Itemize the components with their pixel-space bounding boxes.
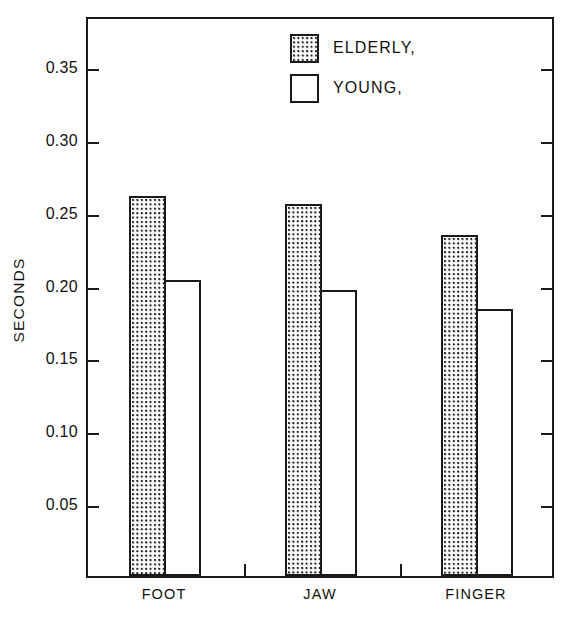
legend-label-young: YOUNG, (333, 79, 403, 97)
bar-foot-elderly (129, 196, 166, 576)
y-axis-tick-mark-right (541, 142, 552, 144)
y-axis-tick-mark (88, 215, 99, 217)
y-axis-tick-label: 0.30 (16, 132, 78, 150)
bar-chart-figure: SECONDS 0.050.100.150.200.250.300.35 FOO… (0, 0, 578, 622)
y-axis-tick-mark (88, 142, 99, 144)
y-axis-tick-labels: 0.050.100.150.200.250.300.35 (12, 0, 78, 622)
open-square-swatch (290, 74, 319, 103)
y-axis-tick-mark (88, 506, 99, 508)
y-axis-tick-mark-right (541, 69, 552, 71)
dotted-square-swatch (290, 34, 319, 63)
y-axis-tick-label: 0.15 (16, 350, 78, 368)
y-axis-tick-mark (88, 360, 99, 362)
y-axis-tick-mark (88, 433, 99, 435)
bar-jaw-young (320, 290, 357, 576)
legend-entry-elderly: ELDERLY, (290, 28, 520, 68)
y-axis-tick-mark-right (541, 215, 552, 217)
y-axis-tick-label: 0.05 (16, 496, 78, 514)
bar-foot-young (164, 280, 201, 576)
bar-finger-young (476, 309, 513, 576)
legend-label-elderly: ELDERLY, (333, 39, 416, 57)
x-axis-separator-tick (244, 564, 246, 576)
y-axis-tick-label: 0.10 (16, 423, 78, 441)
chart-legend: ELDERLY, YOUNG, (290, 28, 520, 108)
x-axis-category-labels: FOOTJAWFINGER (86, 586, 554, 612)
bar-jaw-elderly (285, 204, 322, 576)
y-axis-tick-mark (88, 69, 99, 71)
y-axis-tick-mark (88, 288, 99, 290)
y-axis-tick-label: 0.35 (16, 59, 78, 77)
x-axis-category-label: FOOT (142, 586, 187, 602)
y-axis-tick-label: 0.20 (16, 278, 78, 296)
x-axis-category-label: FINGER (445, 586, 506, 602)
bar-finger-elderly (441, 235, 478, 576)
x-axis-separator-tick (400, 564, 402, 576)
y-axis-tick-mark-right (541, 506, 552, 508)
x-axis-category-label: JAW (303, 586, 336, 602)
y-axis-tick-mark-right (541, 288, 552, 290)
y-axis-tick-label: 0.25 (16, 205, 78, 223)
y-axis-tick-mark-right (541, 433, 552, 435)
y-axis-tick-mark-right (541, 360, 552, 362)
legend-entry-young: YOUNG, (290, 68, 520, 108)
